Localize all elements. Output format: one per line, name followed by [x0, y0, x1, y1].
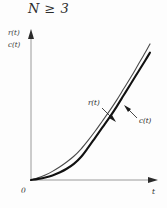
- curve-r: [31, 44, 150, 180]
- curve-c: [31, 53, 150, 180]
- y-axis-label-r: r(t): [8, 29, 20, 37]
- figure-container: N ≥ 3 r(t) c(t) 0 t r(t) c(t): [0, 0, 167, 208]
- curve-annotation-c: c(t): [139, 117, 151, 125]
- x-axis-arrowhead: [148, 177, 158, 183]
- y-axis-label-c: c(t): [8, 41, 20, 49]
- plot-area: [0, 0, 167, 208]
- curve-annotation-r: r(t): [88, 99, 100, 107]
- x-axis-label: t: [152, 187, 155, 196]
- y-axis-arrowhead: [28, 29, 34, 39]
- origin-label: 0: [21, 186, 26, 195]
